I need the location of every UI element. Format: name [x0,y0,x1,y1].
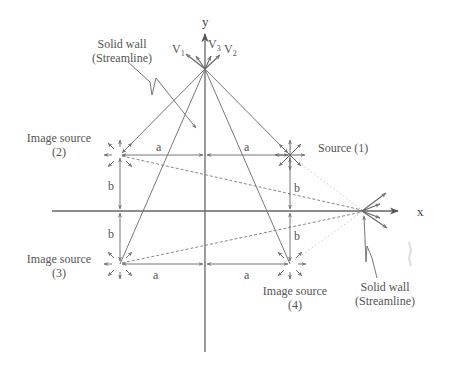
right-wall-leader [364,216,377,278]
dim-a-bottom-left: a [153,269,158,281]
image-source-3-icon [104,252,132,279]
v2-label: V2 [224,43,237,58]
dotted-lines [292,157,362,262]
y-axis-label: y [202,15,209,28]
image-source-3-label: Image source (3) [14,253,104,279]
v1-arrow [186,54,205,69]
image-source-2-label: Image source (2) [14,132,104,158]
faint-mark [409,242,411,266]
dim-a-top-right: a [244,141,249,153]
source-1-label: Source (1) [318,142,368,154]
image-source-4-label: Image source (4) [250,285,340,311]
image-source-4-icon [278,252,306,279]
v3-arrow [205,56,211,69]
dashed-lines [122,156,362,263]
x-axis-label: x [417,205,424,218]
v1-label: V1 [172,43,185,58]
velocity-vectors [186,54,220,69]
dim-b-right-upper: b [294,182,300,194]
dim-b-right-lower: b [294,230,300,242]
dim-b-left-upper: b [108,180,114,192]
top-wall-leader [128,62,196,128]
dim-b-left-lower: b [108,228,114,240]
right-wall-label: Solid wall (Streamline) [345,281,425,307]
source-1-icon [275,140,305,170]
image-source-2-icon [104,140,132,167]
v2-arrow [205,55,220,69]
top-wall-label: Solid wall (Streamline) [72,38,172,64]
dim-a-bottom-right: a [244,269,249,281]
dim-a-top-left: a [156,141,161,153]
v3-label: V3 [208,38,221,53]
